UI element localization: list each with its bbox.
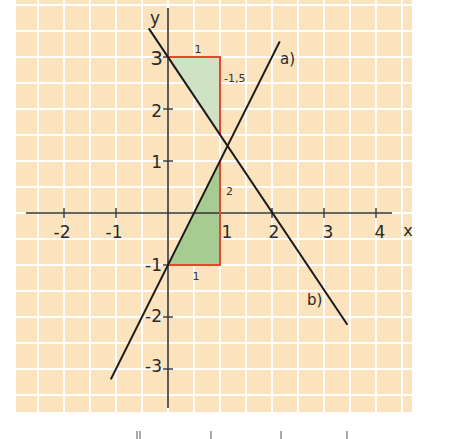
triangle-b-rise-label: -1,5 <box>224 72 245 85</box>
coordinate-plot: -2 -1 1 2 3 4 x 3 2 1 -1 -2 -3 y a) b) 1… <box>0 0 453 439</box>
y-tick-label: 3 <box>150 46 163 70</box>
triangle-b-run-label: 1 <box>195 43 202 56</box>
y-tick-label: -2 <box>145 306 162 326</box>
bottom-edge-marks <box>137 431 347 439</box>
x-tick-label: 1 <box>222 222 233 242</box>
x-tick-label: 4 <box>375 222 386 242</box>
x-tick-label: 2 <box>269 222 280 242</box>
x-tick-label: -2 <box>54 222 71 242</box>
triangle-a-rise-label: 2 <box>226 185 233 198</box>
y-tick-label: -1 <box>145 255 162 275</box>
x-axis-label: x <box>403 221 412 240</box>
line-a-label: a) <box>280 50 295 68</box>
y-axis-label: y <box>150 8 160 28</box>
x-tick-label: 3 <box>323 222 334 242</box>
y-tick-label: 1 <box>151 152 162 172</box>
y-tick-label: 2 <box>151 101 162 121</box>
x-tick-label: -1 <box>106 222 123 242</box>
y-tick-label: -3 <box>145 356 162 376</box>
triangle-a-run-label: 1 <box>193 270 200 283</box>
line-b-label: b) <box>307 291 322 309</box>
